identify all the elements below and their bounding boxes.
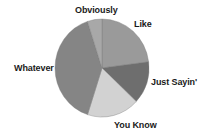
label-like: Like	[134, 19, 152, 29]
label-whatever: Whatever	[14, 63, 54, 73]
pie-slices	[55, 19, 149, 117]
label-just-sayin: Just Sayin'	[151, 77, 197, 87]
label-obviously: Obviously	[75, 5, 118, 15]
pie-chart: Obviously Like Just Sayin' You Know What…	[0, 0, 201, 136]
label-you-know: You Know	[114, 120, 157, 130]
